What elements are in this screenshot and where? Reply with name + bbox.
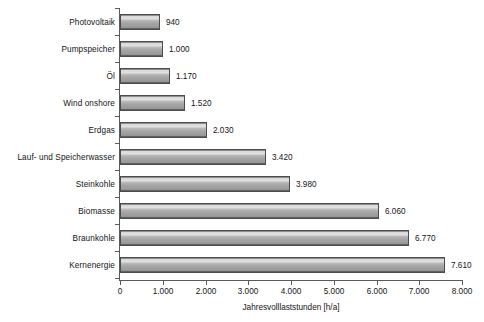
y-axis-tick [115,251,119,252]
x-axis-tick [291,281,292,285]
x-axis-tick [206,281,207,285]
bar-value-label: 7.610 [451,260,472,269]
x-axis-tick-label: 0 [118,287,123,296]
x-axis-tick [163,281,164,285]
bar-row: Wind onshore1.520 [0,89,484,116]
bar-row: Erdgas2.030 [0,116,484,143]
x-axis-tick [120,281,121,285]
bar [120,122,207,138]
x-axis-tick-label: 3.000 [238,287,259,296]
bar [120,149,266,165]
bar-value-label: 2.030 [213,125,234,134]
bar [120,203,379,219]
bar-fill [120,149,266,165]
bar-fill [120,230,409,246]
y-axis-tick [115,278,119,279]
category-label: Photovoltaik [69,17,115,26]
bar [120,14,160,30]
bar [120,176,290,192]
y-axis-tick [115,8,119,9]
category-label: Kernenergie [69,260,115,269]
bar-row: Kernenergie7.610 [0,251,484,278]
category-label: Pumpspeicher [61,44,115,53]
category-label: Biomasse [78,206,115,215]
category-label: Wind onshore [63,98,115,107]
x-axis-tick-label: 8.000 [452,287,473,296]
bar [120,230,409,246]
bar [120,257,445,273]
bar-value-label: 940 [166,17,180,26]
x-axis-tick-label: 1.000 [153,287,174,296]
y-axis-tick [115,170,119,171]
bar-value-label: 3.420 [272,152,293,161]
y-axis-line [119,8,120,280]
bar-fill [120,95,185,111]
category-label: Steinkohle [76,179,115,188]
x-axis-tick-label: 5.000 [324,287,345,296]
bar-row: Braunkohle6.770 [0,224,484,251]
bar-row: Steinkohle3.980 [0,170,484,197]
category-label: Öl [107,71,115,80]
bar-row: Pumpspeicher1.000 [0,35,484,62]
y-axis-tick [115,116,119,117]
bar-fill [120,14,160,30]
x-axis-tick-label: 7.000 [409,287,430,296]
bar-row: Öl1.170 [0,62,484,89]
bar-value-label: 1.520 [191,98,212,107]
x-axis-tick [334,281,335,285]
bar-fill [120,257,445,273]
y-axis-tick [115,224,119,225]
x-axis-tick-label: 4.000 [281,287,302,296]
bar-value-label: 6.060 [385,206,406,215]
bar-fill [120,68,170,84]
x-axis-tick [377,281,378,285]
y-axis-tick [115,197,119,198]
x-axis-tick [419,281,420,285]
bar-fill [120,41,163,57]
bar-fill [120,176,290,192]
bar-row: Photovoltaik940 [0,8,484,35]
bar-value-label: 6.770 [415,233,436,242]
bar [120,95,185,111]
x-axis-tick [248,281,249,285]
bar-fill [120,122,207,138]
x-axis-tick-label: 6.000 [367,287,388,296]
category-label: Lauf- und Speicherwasser [17,152,115,161]
y-axis-tick [115,62,119,63]
x-axis-title: Jahresvolllaststunden [h/a] [243,303,340,312]
x-axis-tick [462,281,463,285]
bar-row: Biomasse6.060 [0,197,484,224]
y-axis-tick [115,143,119,144]
category-label: Erdgas [88,125,115,134]
y-axis-tick [115,89,119,90]
bar-chart: Photovoltaik940Pumpspeicher1.000Öl1.170W… [0,0,484,322]
category-label: Braunkohle [73,233,115,242]
y-axis-tick [115,35,119,36]
bar [120,41,163,57]
bar-value-label: 3.980 [296,179,317,188]
x-axis-tick-label: 2.000 [196,287,217,296]
bar-fill [120,203,379,219]
bar-value-label: 1.170 [176,71,197,80]
bar [120,68,170,84]
bar-value-label: 1.000 [169,44,190,53]
bar-row: Lauf- und Speicherwasser3.420 [0,143,484,170]
